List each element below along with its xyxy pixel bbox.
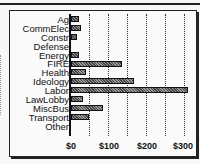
top-rule [0, 3, 200, 5]
bar-energy [71, 52, 79, 58]
left-edge-artifact [0, 55, 4, 115]
category-label: Other [10, 122, 69, 131]
bar-ideology [71, 78, 134, 84]
bar-transport [71, 114, 89, 120]
bar-commelec [71, 25, 81, 31]
bar-lawlobby [71, 96, 83, 102]
bar-miscbus [71, 105, 103, 111]
bar-labor [71, 87, 188, 93]
gridline [108, 14, 109, 136]
bar-constr [71, 34, 77, 40]
bar-health [71, 69, 86, 75]
gridline [184, 14, 185, 136]
gridline [127, 14, 128, 136]
chart-frame: Ag CommElec Constr Defense Energy FIRE H… [9, 10, 197, 157]
x-tick-label: $200 [137, 141, 157, 151]
bar-fire [71, 61, 122, 67]
category-labels: Ag CommElec Constr Defense Energy FIRE H… [10, 15, 69, 131]
bar-ag [71, 16, 79, 22]
x-tick-label: $100 [99, 141, 119, 151]
gridline [146, 14, 147, 136]
x-tick-label: $300 [173, 141, 193, 151]
plot-area: $0 $100 $200 $300 [69, 14, 191, 139]
gridline [89, 14, 90, 136]
gridline [165, 14, 166, 136]
x-tick-label: $0 [66, 141, 76, 151]
